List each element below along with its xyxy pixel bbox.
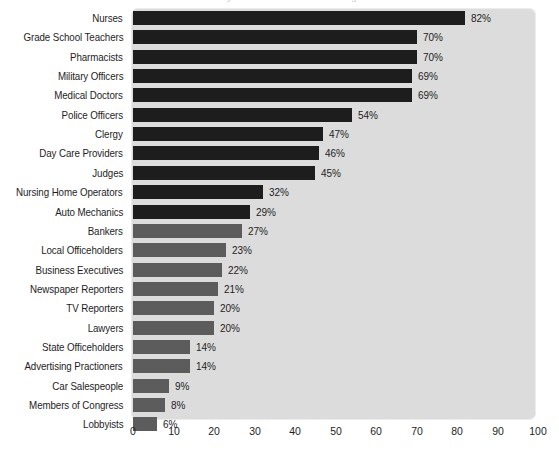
bar-value-label: 14% (196, 340, 216, 354)
bar (133, 185, 263, 199)
bar-value-label: 22% (228, 263, 248, 277)
bar (133, 243, 226, 257)
bar-row: 70% (131, 50, 537, 64)
x-axis-tick-label: 70 (411, 424, 423, 438)
x-axis-tick-label: 60 (370, 424, 382, 438)
bar (133, 340, 190, 354)
bar (133, 166, 315, 180)
category-label: Judges (92, 166, 123, 180)
category-label: Day Care Providers (39, 146, 123, 160)
bar-row: 82% (131, 11, 537, 25)
x-axis: 0102030405060708090100 (131, 424, 537, 444)
bar-row: 23% (131, 243, 537, 257)
category-label: Medical Doctors (54, 88, 123, 102)
bar-value-label: 23% (232, 243, 252, 257)
category-label: Local Officeholders (41, 243, 123, 257)
category-label: Members of Congress (29, 398, 123, 412)
bar (133, 69, 412, 83)
bar (133, 205, 250, 219)
bar (133, 282, 218, 296)
bar-value-label: 82% (471, 11, 491, 25)
bar-row: 69% (131, 88, 537, 102)
bar (133, 379, 169, 393)
bar (133, 301, 214, 315)
category-label: Nursing Home Operators (17, 185, 123, 199)
category-label: Newspaper Reporters (30, 282, 123, 296)
x-axis-tick-label: 20 (208, 424, 220, 438)
x-axis-tick-label: 10 (168, 424, 180, 438)
bar-value-label: 27% (248, 224, 268, 238)
bar-value-label: 45% (321, 166, 341, 180)
bar (133, 88, 412, 102)
bar-row: 9% (131, 379, 537, 393)
x-axis-tick-label: 100 (529, 424, 546, 438)
bar-row: 54% (131, 108, 537, 122)
category-label: Advertising Practioners (25, 359, 123, 373)
bar-row: 70% (131, 30, 537, 44)
bar-value-label: 20% (220, 301, 240, 315)
category-label: TV Reporters (66, 301, 123, 315)
category-label: Military Officers (57, 69, 123, 83)
x-axis-tick-label: 90 (492, 424, 504, 438)
bar (133, 108, 352, 122)
category-label: Lawyers (87, 321, 123, 335)
bar (133, 321, 214, 335)
bar-row: 29% (131, 205, 537, 219)
category-label: Grade School Teachers (23, 30, 123, 44)
bar-row: 69% (131, 69, 537, 83)
category-label: State Officeholders (42, 340, 123, 354)
category-axis-labels: NursesGrade School TeachersPharmacistsMi… (0, 11, 128, 417)
bar-row: 14% (131, 359, 537, 373)
bar-value-label: 14% (196, 359, 216, 373)
bar-value-label: 9% (175, 379, 189, 393)
x-axis-tick-label: 80 (451, 424, 463, 438)
bar-value-label: 70% (423, 30, 443, 44)
bar-row: 32% (131, 185, 537, 199)
category-label: Bankers (88, 224, 123, 238)
bar (133, 224, 242, 238)
bar (133, 398, 165, 412)
bar-value-label: 8% (171, 398, 185, 412)
bar-row: 46% (131, 146, 537, 160)
bar (133, 127, 323, 141)
bar-value-label: 20% (220, 321, 240, 335)
bar-chart: Honesty and Ethical Standards Ratings Nu… (0, 0, 559, 451)
bar-value-label: 54% (358, 108, 378, 122)
bar-value-label: 32% (269, 185, 289, 199)
bar-row: 22% (131, 263, 537, 277)
bar (133, 359, 190, 373)
bar-value-label: 29% (256, 205, 276, 219)
bar-row: 14% (131, 340, 537, 354)
bar-value-label: 69% (418, 88, 438, 102)
category-label: Car Salespeople (52, 379, 123, 393)
bar (133, 50, 417, 64)
bar (133, 11, 465, 25)
category-label: Auto Mechanics (55, 205, 123, 219)
bar-value-label: 70% (423, 50, 443, 64)
bar-row: 45% (131, 166, 537, 180)
bars-layer: 82%70%70%69%69%54%47%46%45%32%29%27%23%2… (131, 11, 537, 417)
category-label: Clergy (95, 127, 123, 141)
bar-row: 21% (131, 282, 537, 296)
bar-row: 27% (131, 224, 537, 238)
category-label: Police Officers (62, 108, 123, 122)
category-label: Nurses (93, 11, 123, 25)
bar-value-label: 21% (224, 282, 244, 296)
bar-value-label: 46% (325, 146, 345, 160)
bar-row: 8% (131, 398, 537, 412)
bar (133, 263, 222, 277)
x-axis-tick-label: 0 (130, 424, 136, 438)
bar-value-label: 47% (329, 127, 349, 141)
category-label: Business Executives (35, 263, 123, 277)
category-label: Pharmacists (70, 50, 123, 64)
bar-value-label: 69% (418, 69, 438, 83)
x-axis-tick-label: 30 (249, 424, 261, 438)
bar-row: 20% (131, 301, 537, 315)
bar-row: 20% (131, 321, 537, 335)
category-label: Lobbyists (83, 417, 123, 431)
bar (133, 146, 319, 160)
x-axis-tick-label: 50 (330, 424, 342, 438)
bar (133, 30, 417, 44)
x-axis-tick-label: 40 (289, 424, 301, 438)
chart-title: Honesty and Ethical Standards Ratings (0, 0, 559, 2)
